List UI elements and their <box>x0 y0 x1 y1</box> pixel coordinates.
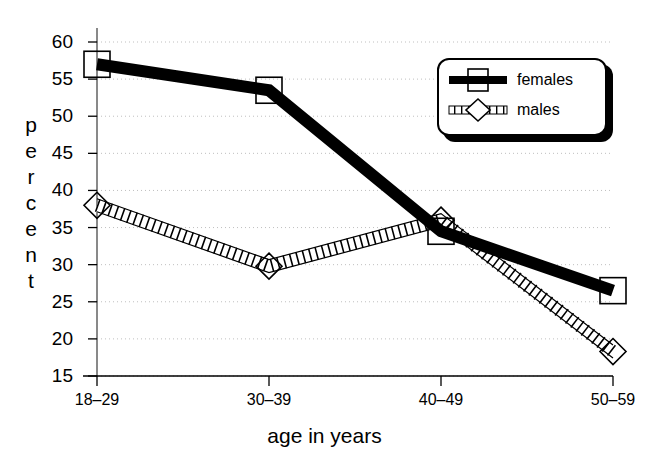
males-line-edge-top <box>97 199 613 345</box>
x-tick-label: 40–49 <box>419 392 464 408</box>
y-tick-label: 55 <box>39 69 73 88</box>
line-chart: p e r c e n t 60555045403530252015 18–29 <box>0 0 649 465</box>
legend-item-females[interactable]: females <box>447 66 573 94</box>
y-tick-label: 15 <box>39 366 73 385</box>
legend-key-males-icon <box>447 97 509 123</box>
y-tick-label: 50 <box>39 106 73 125</box>
y-tick-label: 25 <box>39 292 73 311</box>
x-tick-label: 18–29 <box>75 392 120 408</box>
x-tick-label: 50–59 <box>591 392 636 408</box>
males-line-hatch <box>97 205 613 351</box>
y-tick-label: 20 <box>39 329 73 348</box>
legend-label-males: males <box>517 101 560 119</box>
y-tick-label: 45 <box>39 143 73 162</box>
series-males <box>97 199 613 358</box>
y-tick-label: 60 <box>39 32 73 51</box>
y-tick-label: 30 <box>39 255 73 274</box>
y-tick-label: 35 <box>39 218 73 237</box>
x-tick-label: 30–39 <box>247 392 292 408</box>
legend-key-females-icon <box>447 67 509 93</box>
legend: females males <box>437 58 613 142</box>
x-axis-title: age in years <box>0 424 649 448</box>
legend-label-females: females <box>517 71 573 89</box>
legend-item-males[interactable]: males <box>447 96 560 124</box>
y-tick-label: 40 <box>39 180 73 199</box>
